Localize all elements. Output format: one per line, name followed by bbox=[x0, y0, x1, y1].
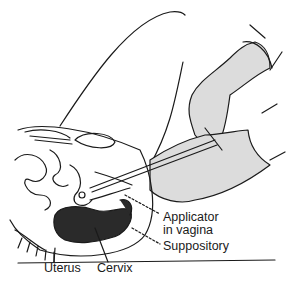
intestines bbox=[15, 155, 50, 210]
label-suppository: Suppository bbox=[163, 240, 229, 253]
rectum-dark bbox=[54, 207, 131, 243]
lower-glove bbox=[150, 130, 270, 202]
upper-glove bbox=[189, 42, 270, 142]
pubic-bone bbox=[25, 130, 70, 138]
leader-uterus bbox=[54, 248, 55, 262]
bladder bbox=[75, 133, 115, 147]
medical-illustration bbox=[0, 0, 293, 285]
thigh-outline bbox=[60, 12, 185, 126]
cervix-os bbox=[79, 192, 85, 198]
label-applicator-in-vagina: Applicator in vagina bbox=[163, 211, 219, 237]
label-applicator-line2: in vagina bbox=[163, 224, 219, 237]
label-cervix: Cervix bbox=[97, 262, 132, 275]
leader-suppository bbox=[132, 228, 160, 244]
label-uterus: Uterus bbox=[44, 262, 81, 275]
